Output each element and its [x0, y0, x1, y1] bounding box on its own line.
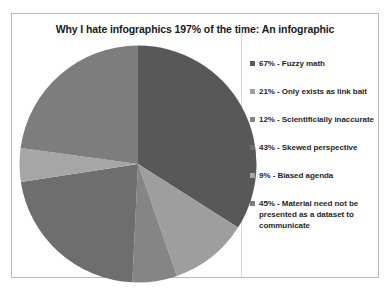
legend-item-label: 21% - Only exists as link bait: [259, 86, 367, 97]
legend-swatch-icon: [250, 89, 255, 94]
legend-item[interactable]: 9% - Biased agenda: [250, 170, 392, 181]
chart-title: Why I hate infographics 197% of the time…: [12, 23, 378, 35]
legend-item[interactable]: 45% - Material need not be presented as …: [250, 198, 392, 231]
legend-swatch-icon: [250, 173, 255, 178]
pie-slice: [21, 46, 138, 165]
pie-chart: [19, 45, 257, 283]
legend-item-label: 12% - Scientificially inaccurate: [259, 114, 374, 125]
legend-swatch-icon: [250, 61, 255, 66]
legend-item[interactable]: 43% - Skewed perspective: [250, 142, 392, 153]
legend-swatch-icon: [250, 145, 255, 150]
chart-legend: 67% - Fuzzy math21% - Only exists as lin…: [250, 58, 392, 248]
legend-item[interactable]: 67% - Fuzzy math: [250, 58, 392, 69]
pie-slice: [21, 164, 138, 282]
legend-swatch-icon: [250, 201, 255, 206]
legend-item-label: 9% - Biased agenda: [259, 170, 333, 181]
pie-chart-svg: [19, 45, 257, 283]
chart-frame: Why I hate infographics 197% of the time…: [11, 13, 379, 278]
legend-item-label: 45% - Material need not be presented as …: [259, 198, 392, 231]
legend-item[interactable]: 21% - Only exists as link bait: [250, 86, 392, 97]
legend-item-label: 43% - Skewed perspective: [259, 142, 357, 153]
legend-item[interactable]: 12% - Scientificially inaccurate: [250, 114, 392, 125]
pie-slice-group: [20, 46, 257, 283]
legend-item-label: 67% - Fuzzy math: [259, 58, 325, 69]
legend-swatch-icon: [250, 117, 255, 122]
